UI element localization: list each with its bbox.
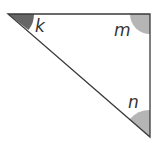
angle-n-wedge <box>130 110 150 137</box>
angle-k-label: k <box>35 16 46 36</box>
angle-m-label: m <box>114 20 131 40</box>
triangle-diagram: k m n <box>0 0 161 143</box>
angle-m-wedge <box>130 14 150 34</box>
angle-k-wedge <box>8 14 34 30</box>
angle-n-label: n <box>128 92 139 112</box>
